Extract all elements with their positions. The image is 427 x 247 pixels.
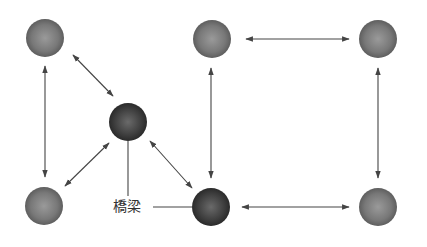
edge-bottomleft-bridge — [65, 143, 109, 186]
edge-topleft-bridge — [73, 55, 113, 96]
bridge-label: 橋梁 — [113, 198, 141, 214]
node-bottom-right — [359, 188, 397, 226]
network-diagram — [0, 0, 427, 247]
edge-bridge-bottommiddle — [150, 141, 192, 188]
node-bridge — [109, 103, 147, 141]
node-top-right — [359, 20, 397, 58]
node-top-middle — [193, 20, 231, 58]
node-top-left — [26, 19, 64, 57]
node-bottom-left — [25, 187, 63, 225]
node-bottom-middle — [192, 188, 230, 226]
